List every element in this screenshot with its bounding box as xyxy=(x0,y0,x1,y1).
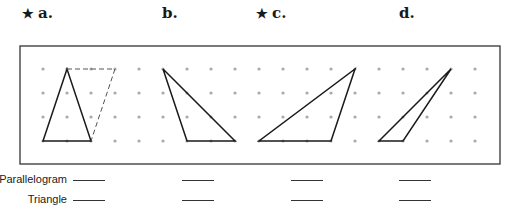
answer-blank-parallelogram-b[interactable] xyxy=(182,180,214,181)
grid-dot xyxy=(161,91,164,94)
grid-dot xyxy=(209,67,212,70)
grid-dot xyxy=(137,91,140,94)
grid-dot xyxy=(281,91,284,94)
grid-dot xyxy=(41,115,44,118)
grid-dot xyxy=(377,67,380,70)
parallelogram-a-dashed xyxy=(67,69,115,141)
grid-dot xyxy=(137,115,140,118)
grid-dot xyxy=(473,139,476,142)
grid-dot xyxy=(281,67,284,70)
grid-dot xyxy=(329,91,332,94)
grid-dot xyxy=(161,139,164,142)
answer-blank-triangle-a[interactable] xyxy=(73,200,105,201)
triangle-c xyxy=(259,69,355,141)
grid-dot xyxy=(449,115,452,118)
grid-dot xyxy=(425,67,428,70)
grid-dot xyxy=(449,91,452,94)
grid-dot xyxy=(377,91,380,94)
grid-dot xyxy=(353,91,356,94)
triangle-d xyxy=(379,69,451,141)
grid-dot xyxy=(425,139,428,142)
grid-dot xyxy=(329,67,332,70)
grid-dot xyxy=(209,91,212,94)
parallelogram-label: Parallelogram xyxy=(0,173,67,185)
grid-dot xyxy=(305,67,308,70)
grid-dot xyxy=(305,91,308,94)
answer-blank-triangle-c[interactable] xyxy=(291,200,323,201)
grid-dot xyxy=(305,115,308,118)
grid-dot xyxy=(473,67,476,70)
triangle-b xyxy=(163,69,235,141)
grid-dot xyxy=(257,115,260,118)
grid-dot xyxy=(137,139,140,142)
grid-dot xyxy=(185,115,188,118)
grid-dot xyxy=(185,67,188,70)
grid-dot xyxy=(377,115,380,118)
answer-blank-triangle-d[interactable] xyxy=(399,200,431,201)
grid-dot xyxy=(113,91,116,94)
answer-blank-triangle-b[interactable] xyxy=(182,200,214,201)
grid-dot xyxy=(89,115,92,118)
grid-dot xyxy=(233,115,236,118)
grid-dot xyxy=(473,91,476,94)
grid-dot xyxy=(113,139,116,142)
grid-dot xyxy=(65,91,68,94)
grid-dot xyxy=(353,115,356,118)
answer-blank-parallelogram-d[interactable] xyxy=(399,180,431,181)
grid-dot xyxy=(65,115,68,118)
grid-dot xyxy=(329,115,332,118)
grid-dot xyxy=(257,91,260,94)
grid-dot xyxy=(89,91,92,94)
grid-dot xyxy=(281,115,284,118)
grid-dot xyxy=(233,91,236,94)
grid-dot xyxy=(401,91,404,94)
grid-dot xyxy=(257,67,260,70)
triangle-a xyxy=(43,69,91,141)
grid-dot xyxy=(473,115,476,118)
grid-dot xyxy=(41,91,44,94)
grid-dot xyxy=(161,115,164,118)
grid-dot xyxy=(233,67,236,70)
answer-blank-parallelogram-c[interactable] xyxy=(291,180,323,181)
grid-dot xyxy=(401,67,404,70)
answer-blank-parallelogram-a[interactable] xyxy=(73,180,105,181)
grid-dot xyxy=(353,139,356,142)
grid-dot xyxy=(41,67,44,70)
grid-dot xyxy=(449,139,452,142)
grid-dot xyxy=(137,67,140,70)
grid-dot xyxy=(425,115,428,118)
triangle-label: Triangle xyxy=(28,193,67,205)
dot-grid-figure xyxy=(0,0,508,219)
grid-frame xyxy=(20,46,500,164)
grid-dot xyxy=(113,115,116,118)
